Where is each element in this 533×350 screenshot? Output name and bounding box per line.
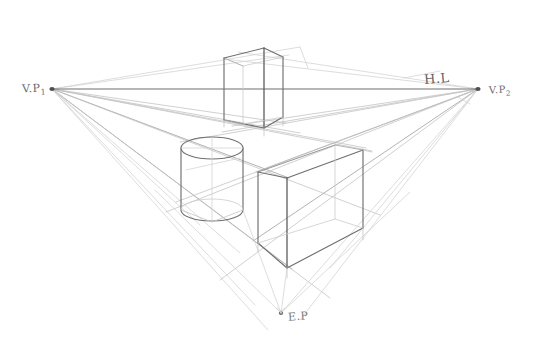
label-horizon-line: H.L xyxy=(423,70,450,87)
eye-point-convergence-lines xyxy=(155,190,410,313)
two-point-perspective-sketch: .faint { stroke: #d2d2d2; stroke-width: … xyxy=(0,0,533,350)
vp-left-dot xyxy=(49,87,54,91)
construction-lines-right-vp xyxy=(166,52,478,320)
vp-right-dot xyxy=(475,87,480,91)
label-vanishing-point-left: V.P1 xyxy=(22,81,47,97)
label-vanishing-point-right: V.P2 xyxy=(489,84,511,99)
label-eye-point: E.P xyxy=(288,309,309,323)
perspective-drawing-sheet: .faint { stroke: #d2d2d2; stroke-width: … xyxy=(0,0,533,350)
